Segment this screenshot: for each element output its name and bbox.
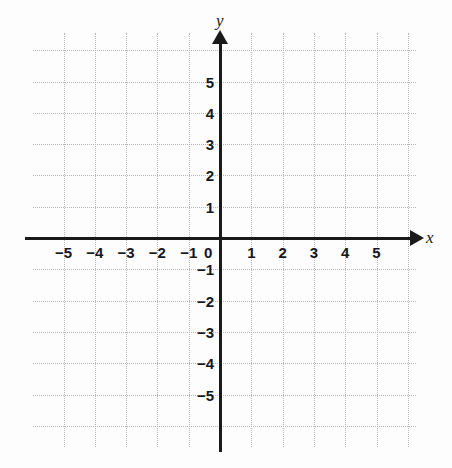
y-axis-line	[219, 42, 222, 452]
grid-line-vertical	[345, 33, 347, 447]
x-tick-label: −4	[86, 245, 103, 260]
y-tick-label: 5	[206, 74, 214, 89]
y-tick-label: −1	[197, 262, 214, 277]
x-axis-label: x	[426, 229, 434, 246]
grid-line-horizontal	[33, 175, 416, 177]
x-tick-label: 5	[372, 245, 380, 260]
x-tick-label: −3	[118, 245, 135, 260]
grid-line-horizontal	[33, 82, 416, 84]
x-axis-arrowhead-icon	[410, 230, 424, 246]
grid-line-vertical	[314, 33, 316, 447]
grid-line-vertical	[126, 33, 128, 447]
y-tick-label: −2	[197, 293, 214, 308]
grid-line-horizontal	[33, 144, 416, 146]
x-tick-label: 4	[341, 245, 349, 260]
x-tick-label: 2	[278, 245, 286, 260]
grid-line-vertical	[157, 33, 159, 447]
x-axis-line	[25, 237, 421, 240]
grid-line-vertical	[251, 33, 253, 447]
grid-line-horizontal	[33, 395, 416, 397]
coordinate-plane-figure: x y 0 −5−4−3−2−112345 54321−1−2−3−4−5	[0, 0, 452, 468]
grid-line-horizontal	[33, 426, 416, 428]
grid-line-horizontal	[33, 332, 416, 334]
x-tick-label: 3	[310, 245, 318, 260]
grid-line-horizontal	[33, 207, 416, 209]
grid-line-vertical	[377, 33, 379, 447]
grid-line-horizontal	[33, 301, 416, 303]
grid-line-horizontal	[33, 363, 416, 365]
grid-line-vertical	[64, 33, 66, 447]
grid-line-vertical	[95, 33, 97, 447]
y-axis-arrowhead-icon	[212, 30, 228, 44]
grid-lines	[33, 33, 416, 447]
x-tick-label: −5	[55, 245, 72, 260]
grid-line-horizontal	[33, 269, 416, 271]
origin-tick-label: 0	[204, 245, 212, 260]
y-axis-label: y	[216, 12, 224, 29]
y-tick-label: 1	[206, 199, 214, 214]
y-tick-label: 4	[206, 105, 214, 120]
y-tick-label: 3	[206, 137, 214, 152]
x-tick-label: −2	[149, 245, 166, 260]
grid-line-vertical	[189, 33, 191, 447]
x-tick-label: 1	[247, 245, 255, 260]
y-tick-label: 2	[206, 168, 214, 183]
grid-line-vertical	[283, 33, 285, 447]
x-tick-label: −1	[180, 245, 197, 260]
y-tick-label: −4	[197, 356, 214, 371]
y-tick-label: −3	[197, 324, 214, 339]
grid-line-horizontal	[33, 50, 416, 52]
y-tick-label: −5	[197, 387, 214, 402]
grid-line-horizontal	[33, 113, 416, 115]
